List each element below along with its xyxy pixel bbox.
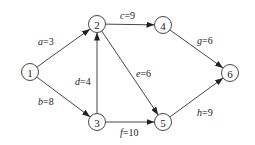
edge-c	[105, 24, 154, 25]
node-5: 5	[155, 114, 172, 131]
node-1: 1	[22, 64, 39, 81]
node-label: 6	[227, 68, 233, 80]
network-diagram: 123456 a=3b=8d=4c=9e=6f=10g=6h=9	[0, 0, 255, 145]
arrow-icon	[105, 24, 154, 25]
edge-label: b=8	[38, 96, 54, 107]
node-6: 6	[222, 65, 239, 82]
edge-label: g=6	[197, 35, 213, 46]
edge-label: a=3	[38, 36, 54, 47]
node-label: 3	[94, 117, 100, 129]
node-3: 3	[89, 114, 106, 131]
node-label: 1	[27, 67, 33, 79]
node-label: 2	[94, 19, 100, 31]
arrow-icon	[37, 29, 90, 67]
edge-label: e=6	[136, 68, 151, 79]
node-label: 5	[160, 117, 166, 129]
edge-label: f=10	[120, 127, 138, 138]
node-label: 4	[160, 20, 166, 32]
edge-a	[37, 29, 90, 67]
edge-label: h=9	[197, 107, 213, 118]
node-2: 2	[89, 16, 106, 33]
edge-label: d=4	[75, 76, 91, 87]
edge-label: c=9	[120, 10, 135, 21]
graph-canvas: 123456 a=3b=8d=4c=9e=6f=10g=6h=9	[0, 0, 255, 145]
node-4: 4	[155, 17, 172, 34]
